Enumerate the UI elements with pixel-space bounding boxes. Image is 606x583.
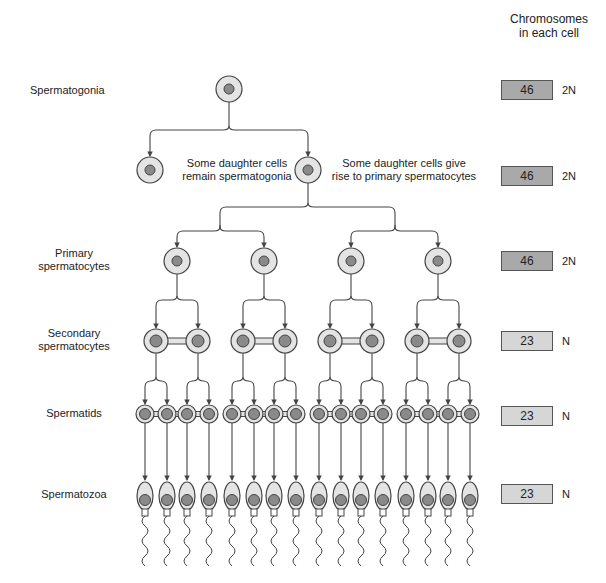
connector-arrow — [330, 296, 351, 328]
sperm-nucleus — [227, 495, 238, 506]
spermatozoon — [462, 482, 478, 566]
nucleus — [453, 335, 465, 347]
sperm-tail — [293, 516, 299, 566]
spermatozoon — [420, 482, 436, 566]
connector-arrow — [406, 377, 417, 404]
daughter-cell-remaining — [137, 157, 163, 183]
sperm-tail — [425, 516, 431, 566]
sperm-tail — [229, 516, 235, 566]
sperm-midpiece — [206, 509, 212, 516]
spermatozoon — [179, 482, 195, 566]
nucleus — [249, 409, 260, 420]
nucleus — [465, 409, 476, 420]
connector-branch — [308, 203, 395, 228]
sperm-nucleus — [356, 495, 367, 506]
nucleus — [145, 165, 155, 175]
sperm-midpiece — [251, 509, 257, 516]
connector-arrow — [198, 377, 209, 404]
sperm-nucleus — [401, 495, 412, 506]
connector-arrow — [177, 227, 220, 247]
sperm-tail — [142, 516, 148, 566]
sperm-nucleus — [336, 495, 347, 506]
sperm-midpiece — [184, 509, 190, 516]
sperm-midpiece — [316, 509, 322, 516]
sperm-midpiece — [229, 509, 235, 516]
secondary-spermatocyte-pair — [318, 329, 384, 353]
nucleus — [150, 335, 162, 347]
nucleus — [227, 409, 238, 420]
sperm-midpiece — [445, 509, 451, 516]
sperm-tail — [445, 516, 451, 566]
sperm-nucleus — [291, 495, 302, 506]
sperm-tail — [251, 516, 257, 566]
connector-arrow — [150, 126, 229, 156]
sperm-midpiece — [164, 509, 170, 516]
nucleus — [224, 84, 234, 94]
sperm-tail — [467, 516, 473, 566]
sperm-midpiece — [293, 509, 299, 516]
nucleus — [162, 409, 173, 420]
spermatogonium-cell — [216, 76, 242, 102]
primary-spermatocyte-cell — [425, 248, 451, 274]
sperm-nucleus — [423, 495, 434, 506]
connector-arrow — [417, 377, 428, 404]
spermatozoon — [288, 482, 304, 566]
nucleus — [204, 409, 215, 420]
sperm-tail — [206, 516, 212, 566]
sperm-midpiece — [403, 509, 409, 516]
sperm-midpiece — [338, 509, 344, 516]
sperm-nucleus — [249, 495, 260, 506]
sperm-midpiece — [380, 509, 386, 516]
spermatogenesis-diagram — [0, 0, 606, 583]
secondary-spermatocyte-pair — [144, 329, 210, 353]
spermatozoon — [201, 482, 217, 566]
sperm-nucleus — [182, 495, 193, 506]
cytoplasmic-bridge — [232, 412, 296, 417]
connector-arrow — [351, 296, 372, 328]
spermatozoon — [398, 482, 414, 566]
nucleus — [237, 335, 249, 347]
nucleus — [324, 335, 336, 347]
nucleus — [192, 335, 204, 347]
sperm-tail — [338, 516, 344, 566]
spermatid-group — [136, 405, 218, 423]
sperm-midpiece — [358, 509, 364, 516]
sperm-tail — [403, 516, 409, 566]
connector-arrow — [285, 377, 296, 404]
connector-arrow — [243, 296, 264, 328]
nucleus — [172, 256, 182, 266]
sperm-tail — [184, 516, 190, 566]
connector-arrow — [156, 377, 167, 404]
secondary-spermatocyte-pair — [231, 329, 297, 353]
sperm-midpiece — [425, 509, 431, 516]
sperm-nucleus — [378, 495, 389, 506]
connector-arrow — [361, 377, 372, 404]
nucleus — [140, 409, 151, 420]
sperm-nucleus — [314, 495, 325, 506]
nucleus — [433, 256, 443, 266]
sperm-nucleus — [465, 495, 476, 506]
spermatozoon — [266, 482, 282, 566]
cytoplasmic-bridge — [319, 412, 383, 417]
sperm-nucleus — [443, 495, 454, 506]
primary-spermatocyte-cell — [251, 248, 277, 274]
sperm-nucleus — [140, 495, 151, 506]
nucleus — [411, 335, 423, 347]
spermatozoon — [137, 482, 153, 566]
nucleus — [279, 335, 291, 347]
primary-spermatocyte-cell — [338, 248, 364, 274]
cytoplasmic-bridge — [145, 412, 209, 417]
daughter-cell-dividing — [295, 157, 321, 183]
connector-arrow — [145, 377, 156, 404]
sperm-nucleus — [162, 495, 173, 506]
primary-spermatocyte-cell — [164, 248, 190, 274]
connector-arrow — [372, 377, 383, 404]
nucleus — [336, 409, 347, 420]
connector-arrow — [243, 377, 254, 404]
spermatozoon — [440, 482, 456, 566]
connector-arrow — [438, 296, 459, 328]
nucleus — [303, 165, 313, 175]
sperm-tail — [164, 516, 170, 566]
connector-arrow — [264, 296, 285, 328]
spermatozoon — [246, 482, 262, 566]
